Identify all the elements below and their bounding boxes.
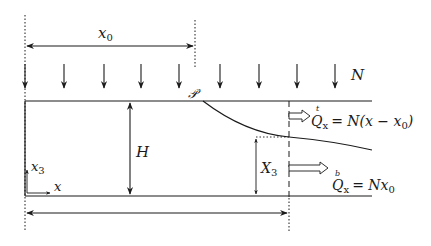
height-label: H [135,143,150,161]
q-top-equation: Qx= N(x − x0) [311,113,413,131]
point-p-label: 𝒫 [188,86,201,101]
load-label: N [350,66,365,84]
q-top-accent: t [316,104,320,113]
layer-diagram: x0 N 𝒫 H x3 x X3 t Qx= N(x − x0) b Qx= N… [0,0,431,246]
hollow-right-arrow-icon [289,162,328,174]
q-bottom-equation: Qx= Nx0 [332,177,395,195]
load-arrows [25,64,335,88]
axis-x3-label: x3 [31,159,45,176]
x0-label: x0 [98,24,113,43]
hollow-right-arrow-icon [289,110,310,122]
x3-label: X3 [260,160,277,178]
axis-x-label: x [54,179,62,194]
